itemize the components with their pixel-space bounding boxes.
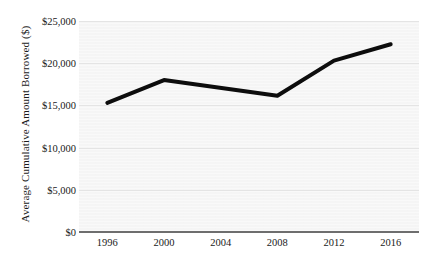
x-axis-line (79, 231, 419, 233)
x-axis-tick-label: 2012 (304, 237, 364, 248)
y-axis-tick-label: $0 (26, 227, 76, 238)
data-series-line (107, 44, 390, 103)
x-axis-tick-label-group: 199620002004200820122016 (79, 237, 419, 259)
y-axis-tick-label: $10,000 (26, 142, 76, 153)
x-axis-tick-label: 2008 (247, 237, 307, 248)
y-axis-tick-label: $15,000 (26, 100, 76, 111)
y-axis-tick-label: $20,000 (26, 58, 76, 69)
x-axis-tick-label: 2000 (134, 237, 194, 248)
y-axis-tick-label: $25,000 (26, 16, 76, 27)
x-axis-tick-label: 2004 (191, 237, 251, 248)
x-axis-tick-label: 2016 (361, 237, 421, 248)
x-axis-tick-label: 1996 (77, 237, 137, 248)
chart-figure: Average Cumulative Amount Borrowed ($) $… (0, 0, 441, 267)
y-axis-tick-label: $5,000 (26, 184, 76, 195)
data-line-svg (79, 21, 419, 232)
plot-area (79, 21, 419, 232)
y-axis-tick-label-group: $0$5,000$10,000$15,000$20,000$25,000 (26, 0, 76, 267)
